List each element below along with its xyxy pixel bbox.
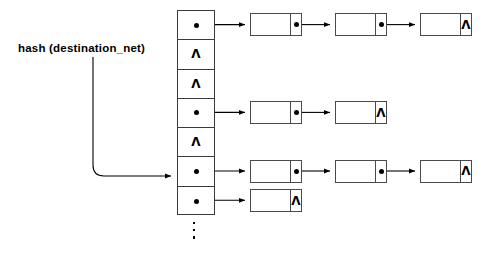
slot-null-symbol: Λ — [191, 78, 200, 90]
node-pointer-dot — [294, 169, 299, 174]
list-node-row3-1[interactable] — [250, 160, 302, 183]
node-data-cell — [421, 14, 461, 35]
bucket-slot-0[interactable] — [178, 11, 214, 40]
ellipsis-dot — [193, 229, 195, 231]
slot-pointer-dot — [194, 110, 199, 115]
slot-pointer-dot — [194, 23, 199, 28]
node-pointer-cell — [291, 161, 301, 182]
bucket-slot-3[interactable] — [178, 99, 214, 128]
slot-null-symbol: Λ — [191, 48, 200, 60]
node-pointer-dot — [379, 169, 384, 174]
node-null-symbol: Λ — [376, 107, 385, 119]
node-pointer-dot — [294, 110, 299, 115]
hash-function-label: hash (destination_net) — [18, 42, 145, 54]
hash-to-slot-arrow — [93, 57, 171, 176]
node-null-symbol: Λ — [461, 165, 470, 177]
list-node-row4-1[interactable]: Λ — [250, 189, 302, 212]
node-data-cell — [421, 161, 461, 182]
bucket-slot-6[interactable] — [178, 187, 214, 216]
ellipsis-dot — [193, 236, 195, 238]
node-pointer-dot — [294, 22, 299, 27]
node-pointer-cell — [376, 161, 386, 182]
list-node-row1-3[interactable]: Λ — [420, 13, 472, 36]
node-data-cell — [336, 14, 376, 35]
node-pointer-cell — [376, 14, 386, 35]
hash-bucket-table: Λ Λ Λ — [177, 10, 215, 215]
node-null-cell: Λ — [291, 190, 301, 211]
list-node-row1-1[interactable] — [250, 13, 302, 36]
node-pointer-dot — [379, 22, 384, 27]
node-data-cell — [251, 14, 291, 35]
node-null-cell: Λ — [376, 102, 386, 123]
vertical-ellipsis — [193, 222, 195, 239]
slot-pointer-dot — [194, 169, 199, 174]
hash-chaining-diagram: hash (destination_net) Λ Λ — [0, 0, 494, 254]
node-null-cell: Λ — [461, 161, 471, 182]
list-node-row3-3[interactable]: Λ — [420, 160, 472, 183]
list-node-row2-2[interactable]: Λ — [335, 101, 387, 124]
node-data-cell — [336, 161, 376, 182]
bucket-slot-1[interactable]: Λ — [178, 40, 214, 69]
ellipsis-dot — [193, 222, 195, 224]
bucket-slot-5[interactable] — [178, 157, 214, 186]
slot-pointer-dot — [194, 199, 199, 204]
bucket-slot-2[interactable]: Λ — [178, 70, 214, 99]
list-node-row1-2[interactable] — [335, 13, 387, 36]
node-data-cell — [251, 161, 291, 182]
node-null-symbol: Λ — [461, 19, 470, 31]
node-null-symbol: Λ — [291, 195, 300, 207]
slot-null-symbol: Λ — [191, 136, 200, 148]
node-null-cell: Λ — [461, 14, 471, 35]
node-data-cell — [251, 190, 291, 211]
bucket-slot-4[interactable]: Λ — [178, 128, 214, 157]
node-pointer-cell — [291, 14, 301, 35]
connector-overlay — [0, 0, 494, 254]
node-pointer-cell — [291, 102, 301, 123]
node-data-cell — [251, 102, 291, 123]
list-node-row2-1[interactable] — [250, 101, 302, 124]
node-data-cell — [336, 102, 376, 123]
list-node-row3-2[interactable] — [335, 160, 387, 183]
